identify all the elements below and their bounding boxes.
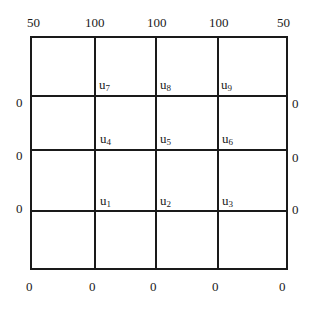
top-boundary-value: 100: [85, 16, 105, 29]
grid-top-edge: [31, 36, 288, 38]
right-boundary-value: 0: [292, 203, 299, 216]
right-boundary-value: 0: [292, 97, 299, 110]
node-u5: u5: [160, 132, 171, 149]
node-u1: u1: [100, 194, 111, 211]
grid-line-col-2: [155, 36, 157, 270]
left-boundary-value: 0: [16, 96, 23, 109]
node-subscript: 9: [228, 83, 233, 93]
top-boundary-value: 50: [27, 16, 40, 29]
grid-right-edge: [286, 36, 288, 270]
grid-line-col-1: [94, 36, 96, 270]
node-subscript: 6: [229, 137, 234, 147]
node-u6: u6: [222, 132, 233, 149]
node-u9: u9: [221, 78, 232, 95]
grid-line-row-1: [31, 95, 288, 97]
bottom-boundary-value: 0: [89, 280, 96, 293]
left-boundary-value: 0: [16, 202, 23, 215]
node-subscript: 8: [167, 83, 172, 93]
left-boundary-value: 0: [16, 149, 23, 162]
node-subscript: 4: [107, 137, 112, 147]
node-subscript: 7: [106, 83, 111, 93]
node-u8: u8: [160, 78, 171, 95]
top-boundary-value: 50: [277, 16, 290, 29]
bottom-boundary-value: 0: [150, 280, 157, 293]
node-subscript: 3: [229, 199, 234, 209]
grid-left-edge: [30, 36, 32, 270]
node-subscript: 1: [107, 199, 112, 209]
right-boundary-value: 0: [292, 151, 299, 164]
top-boundary-value: 100: [209, 16, 229, 29]
node-u2: u2: [160, 194, 171, 211]
bottom-boundary-value: 0: [26, 280, 33, 293]
node-u7: u7: [99, 78, 110, 95]
node-u4: u4: [100, 132, 111, 149]
bottom-boundary-value: 0: [212, 280, 219, 293]
grid-bottom-edge: [31, 268, 288, 270]
top-boundary-value: 100: [147, 16, 167, 29]
node-subscript: 5: [167, 137, 172, 147]
grid-line-col-3: [217, 36, 219, 270]
bottom-boundary-value: 0: [279, 280, 286, 293]
node-u3: u3: [222, 194, 233, 211]
node-subscript: 2: [167, 199, 172, 209]
grid-line-row-2: [31, 149, 288, 151]
